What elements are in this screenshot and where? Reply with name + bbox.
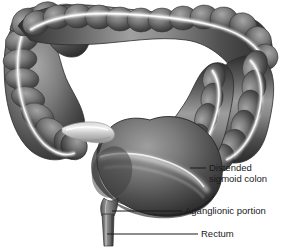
label-aganglionic-portion-text: Aganglionic portion <box>185 205 266 216</box>
colon-illustration: Distended sigmoid colon Aganglionic port… <box>0 0 291 248</box>
rectum <box>102 214 114 246</box>
label-distended-sigmoid-colon-line1: Distended <box>209 162 252 173</box>
label-rectum-text: Rectum <box>201 228 234 239</box>
label-distended-sigmoid-colon-line2: sigmoid colon <box>209 173 267 184</box>
aganglionic-portion <box>101 198 118 216</box>
